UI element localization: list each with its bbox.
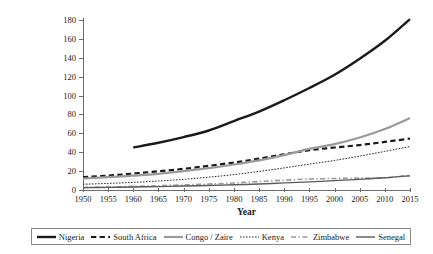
series-line-zimbabwe — [83, 175, 410, 187]
legend-item-south-africa[interactable]: South Africa — [91, 232, 156, 242]
x-axis-line — [83, 190, 411, 191]
chart-legend: NigeriaSouth AfricaCongo / ZaireKenyaZim… — [31, 228, 411, 245]
legend-item-senegal[interactable]: Senegal — [356, 232, 405, 242]
series-canvas — [83, 20, 410, 190]
legend-label-congo-zaire: Congo / Zaire — [186, 232, 233, 242]
legend-swatch-south-africa — [91, 233, 110, 241]
x-tick-label: 2015 — [393, 194, 427, 204]
y-tick-label: 60 — [40, 129, 76, 137]
legend-item-nigeria[interactable]: Nigeria — [37, 232, 85, 242]
chart-figure: Total population (in millions) 020406080… — [0, 0, 433, 254]
y-tick-label: 0 — [40, 186, 76, 194]
series-line-congo-zaire — [83, 118, 410, 178]
legend-item-zimbabwe[interactable]: Zimbabwe — [291, 232, 349, 242]
y-tick-label: 180 — [40, 16, 76, 24]
legend-label-senegal: Senegal — [378, 232, 405, 242]
legend-swatch-senegal — [356, 233, 375, 241]
legend-label-south-africa: South Africa — [113, 232, 156, 242]
series-line-south-africa — [83, 139, 410, 178]
y-tick-label: 40 — [40, 148, 76, 156]
y-tick-label: 120 — [40, 73, 76, 81]
legend-item-kenya[interactable]: Kenya — [240, 232, 284, 242]
plot-area — [83, 20, 410, 190]
legend-item-congo-zaire[interactable]: Congo / Zaire — [164, 232, 233, 242]
legend-swatch-nigeria — [37, 233, 56, 241]
legend-label-nigeria: Nigeria — [59, 232, 85, 242]
legend-label-kenya: Kenya — [262, 232, 284, 242]
y-tick-label: 160 — [40, 35, 76, 43]
x-axis-title: Year — [83, 206, 410, 218]
legend-swatch-congo-zaire — [164, 233, 183, 241]
x-tick-mark — [410, 188, 411, 192]
y-tick-label: 100 — [40, 92, 76, 100]
y-tick-label: 80 — [40, 110, 76, 118]
series-line-nigeria — [133, 19, 410, 147]
legend-swatch-kenya — [240, 233, 259, 241]
y-tick-label: 20 — [40, 167, 76, 175]
y-tick-label: 140 — [40, 54, 76, 62]
legend-label-zimbabwe: Zimbabwe — [313, 232, 349, 242]
legend-swatch-zimbabwe — [291, 233, 310, 241]
